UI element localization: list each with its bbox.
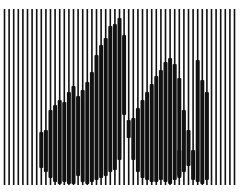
thick-segment [49,110,53,178]
thick-segment [182,110,186,172]
thick-segment [136,108,140,172]
thick-segment [168,58,172,184]
thin-line [220,9,222,185]
thick-segment [58,100,62,184]
thick-segment [76,96,80,176]
thick-segment [39,132,43,168]
thick-segment [118,18,122,160]
thick-segment [108,26,112,172]
thick-segment [177,150,181,178]
thick-segment [131,118,135,160]
thick-segment [104,38,108,176]
line-screen-artwork [0,0,242,192]
thick-segment [205,92,209,180]
thin-line [13,9,15,185]
thick-segment [95,55,99,180]
thick-segment [67,92,71,184]
thick-segment [141,100,145,178]
thick-segment [200,80,204,184]
thick-segment [127,120,131,138]
thin-line [22,9,24,185]
thin-line [211,9,213,185]
thick-segment [99,45,103,178]
thick-segment [196,60,200,182]
thick-segment [53,105,57,182]
thick-segment [150,84,154,182]
thin-line [31,9,33,185]
thin-line [27,9,29,185]
thick-segment [159,70,163,180]
thick-segment [145,92,149,180]
thick-segment [191,150,195,180]
thin-line [4,9,6,185]
thin-line [234,9,236,185]
thick-segment [113,24,117,170]
thin-line [36,9,38,185]
thick-segment [85,82,89,184]
thin-line [225,9,227,185]
thick-segment [44,130,48,172]
thick-segment [62,102,66,182]
thin-line [8,9,10,185]
thick-segment [122,35,126,115]
thin-line [18,9,20,185]
thick-segment [90,72,94,182]
thin-line [229,9,231,185]
thick-segment [154,76,158,182]
thick-segment [72,86,76,184]
thin-line [128,9,130,185]
thin-line [215,9,217,185]
thick-segment [187,130,191,166]
thick-segment [173,64,177,180]
thick-segment [164,62,168,182]
thick-segment [81,90,85,182]
